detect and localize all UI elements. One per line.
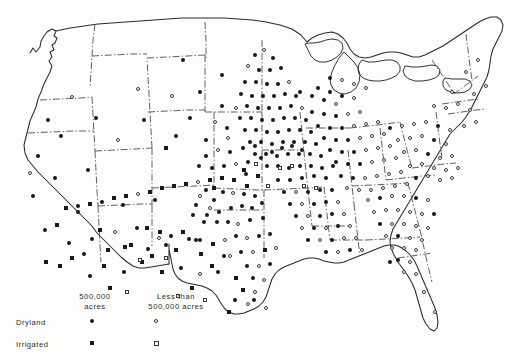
point-irrigated-major [123,245,127,249]
point-dryland-minor [420,238,424,242]
point-dryland-major [324,176,328,180]
point-dryland-minor [231,191,235,195]
point-dryland-major [318,214,322,218]
point-dryland-minor [408,210,412,214]
point-dryland-major [243,128,247,132]
point-dryland-minor [390,194,394,198]
point-dryland-minor [370,160,374,164]
point-dryland-minor [354,236,358,240]
point-dryland-major [257,68,261,72]
point-irrigated-major [241,288,245,292]
point-dryland-major [187,237,191,241]
point-dryland-major [324,200,328,204]
point-dryland-major [76,210,80,214]
point-irrigated-minor [266,184,271,189]
point-dryland-minor [399,170,403,174]
point-dryland-major [250,206,254,210]
point-dryland-major [250,94,254,98]
point-dryland-major [233,298,237,302]
point-irrigated-major [242,168,246,172]
point-dryland-major [289,104,293,108]
point-dryland-minor [394,156,398,160]
point-dryland-minor [196,180,200,184]
point-dryland-major [270,142,274,146]
point-dryland-major [242,192,246,196]
point-dryland-major [229,206,233,210]
point-dryland-minor [352,96,356,100]
point-dryland-minor [464,70,468,74]
point-dryland-major [271,56,275,60]
point-dryland-minor [381,186,385,190]
point-dryland-major [216,270,220,274]
point-dryland-major [265,130,269,134]
point-dryland-minor [342,212,346,216]
point-dryland-major [340,126,344,130]
point-dryland-major [310,94,314,98]
point-dryland-major [309,130,313,134]
point-dryland-minor [420,212,424,216]
point-dryland-major [275,154,279,158]
point-dryland-major [314,142,318,146]
point-dryland-minor [426,174,430,178]
point-dryland-major [286,152,290,156]
point-irrigated-major [55,223,59,227]
point-dryland-major [243,80,247,84]
point-dryland-major [174,134,178,138]
point-dryland-minor [444,168,448,172]
point-dryland-minor [364,148,368,152]
point-dryland-major [288,178,292,182]
point-dryland-major [245,264,249,268]
point-dryland-minor [384,208,388,212]
point-dryland-major [94,116,98,120]
point-dryland-major [319,154,323,158]
point-dryland-major [252,298,256,302]
point-dryland-major [268,68,272,72]
point-dryland-minor [300,106,304,110]
point-dryland-minor [432,166,436,170]
point-irrigated-major [208,178,212,182]
point-dryland-major [276,82,280,86]
point-dryland-major [282,116,286,120]
point-dryland-minor [424,120,428,124]
point-dryland-minor [396,208,400,212]
point-dryland-major [198,90,202,94]
point-dryland-major [198,238,202,242]
point-dryland-major [328,126,332,130]
point-dryland-minor [234,162,238,166]
point-dryland-minor [253,290,257,294]
point-dryland-minor [346,112,350,116]
point-dryland-minor [369,188,373,192]
point-dryland-minor [444,106,448,110]
point-dryland-minor [213,120,217,124]
point-dryland-major [267,106,271,110]
point-dryland-minor [448,128,452,132]
point-dryland-major [82,252,86,256]
point-irrigated-major [212,186,216,190]
point-dryland-minor [476,58,480,62]
point-dryland-major [253,53,257,57]
point-dryland-minor [358,136,362,140]
point-dryland-major [194,203,198,207]
point-irrigated-major [164,146,168,150]
point-dryland-major [432,138,436,142]
point-dryland-major [256,106,260,110]
point-dryland-major [388,126,392,130]
point-dryland-major [351,176,355,180]
point-irrigated-major [160,270,164,274]
point-dryland-major [293,116,297,120]
point-dryland-major [436,124,440,128]
point-dryland-minor [393,184,397,188]
point-dryland-major [191,213,195,217]
point-dryland-major [153,198,157,202]
point-dryland-major [264,152,268,156]
point-dryland-major [276,130,280,134]
point-dryland-minor [382,158,386,162]
legend-column-header-major: 500,000 acres [66,292,124,311]
point-dryland-major [164,243,168,247]
point-dryland-minor [70,95,74,99]
point-dryland-minor [402,270,406,274]
point-dryland-minor [414,148,418,152]
point-dryland-major [276,178,280,182]
point-dryland-minor [198,272,202,276]
point-dryland-minor [262,48,266,52]
